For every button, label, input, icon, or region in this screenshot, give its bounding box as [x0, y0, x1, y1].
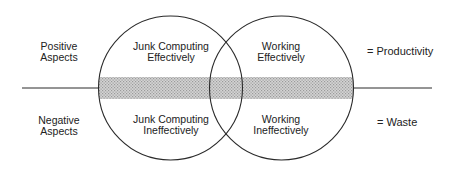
diagram-graphics	[0, 0, 449, 173]
waste-outcome-label: = Waste	[377, 116, 417, 128]
working-ineffectively-label: Working Ineffectively	[248, 114, 314, 136]
productivity-outcome-label: = Productivity	[367, 45, 433, 57]
positive-aspects-label: Positive Aspects	[33, 41, 85, 63]
shaded-band	[95, 77, 360, 99]
working-effectively-label: Working Effectively	[248, 41, 314, 63]
junk-computing-effectively-label: Junk Computing Effectively	[128, 41, 214, 63]
venn-diagram: Positive Aspects Negative Aspects Junk C…	[0, 0, 449, 173]
junk-computing-ineffectively-label: Junk Computing Ineffectively	[128, 114, 214, 136]
negative-aspects-label: Negative Aspects	[33, 115, 85, 137]
